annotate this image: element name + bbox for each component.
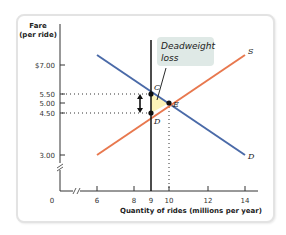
x-tick-14: 14 [241, 197, 250, 205]
supply-demand-chart: Fare (per ride) $7.00 5.50 5.00 4.50 3.0… [0, 0, 286, 235]
demand-label: D [247, 152, 255, 161]
x-tick-0: 0 [50, 197, 54, 205]
callout-line2: loss [161, 53, 179, 63]
x-tick-6: 6 [95, 197, 100, 205]
y-tick-5-50: 5.50 [39, 91, 55, 99]
double-arrow-icon [137, 94, 143, 113]
y-tick-4-50: 4.50 [39, 110, 55, 118]
y-axis-title-line2: (per ride) [19, 31, 57, 39]
y-tick-3-00: 3.00 [39, 152, 55, 160]
y-tick-5-00: 5.00 [39, 100, 55, 108]
x-axis [60, 186, 258, 194]
x-tick-8: 8 [132, 197, 136, 205]
point-c [148, 91, 153, 96]
x-axis-title: Quantity of rides (millions per year) [120, 207, 262, 215]
callout-line1: Deadweight [161, 41, 216, 51]
x-tick-10: 10 [165, 197, 174, 205]
y-axis [57, 24, 65, 191]
x-tick-12: 12 [204, 197, 213, 205]
label-d-point: D [153, 117, 161, 126]
y-tick-7: $7.00 [35, 62, 55, 70]
supply-label: S [248, 47, 254, 56]
x-tick-9: 9 [149, 197, 153, 205]
y-axis-break-icon [57, 164, 63, 171]
point-e [166, 100, 171, 105]
x-axis-break-icon [73, 188, 80, 194]
y-axis-title-line1: Fare [29, 22, 47, 30]
point-d [148, 110, 153, 115]
label-e: E [172, 100, 179, 109]
